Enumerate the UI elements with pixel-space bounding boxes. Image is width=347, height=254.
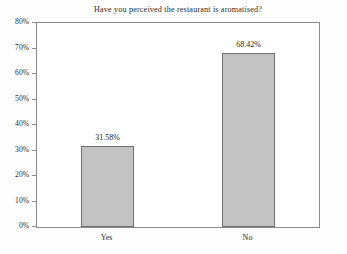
bar-value-label: 31.58% <box>95 133 120 143</box>
x-axis-tick-label: Yes <box>101 232 113 243</box>
chart-title: Have you perceived the restaurant is aro… <box>36 4 320 15</box>
bar[interactable] <box>81 146 133 227</box>
bar-group: 68.42% <box>222 23 274 227</box>
y-axis-tick-label: 10% <box>15 195 29 206</box>
x-axis: YesNo <box>36 229 320 249</box>
y-axis: 0%10%20%30%40%50%60%70%80% <box>0 22 36 228</box>
y-axis-tick-label: 40% <box>15 118 29 129</box>
x-axis-tick-label: No <box>243 232 253 243</box>
bar-group: 31.58% <box>81 23 133 227</box>
y-axis-tick-label: 50% <box>15 93 29 104</box>
y-axis-tick-label: 0% <box>19 220 29 231</box>
y-axis-tick-label: 70% <box>15 42 29 53</box>
y-axis-tick-label: 80% <box>15 16 29 27</box>
bar-value-label: 68.42% <box>236 40 261 50</box>
y-axis-tick-label: 20% <box>15 169 29 180</box>
y-axis-tick-label: 60% <box>15 67 29 78</box>
y-axis-tick-label: 30% <box>15 144 29 155</box>
bar-chart-figure: Have you perceived the restaurant is aro… <box>0 0 347 254</box>
plot-area: 31.58%68.42% <box>36 22 320 228</box>
bar[interactable] <box>222 53 274 227</box>
